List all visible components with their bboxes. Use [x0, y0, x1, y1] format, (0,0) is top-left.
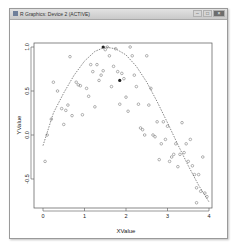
data-point [181, 121, 184, 124]
data-point [164, 138, 167, 141]
data-point [162, 121, 165, 124]
data-point [131, 55, 134, 58]
data-point [89, 63, 92, 66]
data-point [201, 156, 204, 159]
data-point [177, 165, 180, 168]
data-point [145, 55, 148, 58]
data-point [110, 85, 113, 88]
data-point [199, 190, 202, 193]
data-point [125, 96, 128, 99]
data-point [112, 65, 115, 68]
data-point [87, 95, 90, 98]
y-tick-label: -0.5 [24, 174, 30, 183]
data-point [172, 153, 175, 156]
data-point [100, 74, 103, 77]
y-tick-label: 0.5 [24, 87, 30, 95]
highlight-point [118, 79, 121, 82]
data-point [148, 104, 151, 107]
data-point [183, 151, 186, 154]
y-axis: -0.50.00.51.0 [24, 43, 34, 184]
data-point [67, 104, 70, 107]
x-tick-label: 3 [166, 213, 169, 219]
data-point [102, 69, 105, 72]
data-point [166, 125, 169, 128]
data-point [129, 46, 132, 49]
data-point [118, 103, 121, 106]
data-point [133, 74, 136, 77]
data-point [141, 128, 144, 131]
data-point [56, 90, 59, 93]
data-point [104, 48, 107, 51]
data-point [123, 77, 126, 80]
data-point [156, 121, 159, 124]
data-point [158, 158, 161, 161]
data-point [204, 192, 207, 195]
x-tick-label: 4 [207, 213, 210, 219]
data-point [71, 114, 74, 117]
data-point [52, 81, 55, 84]
data-point [195, 201, 198, 204]
highlight-point [102, 45, 105, 48]
data-point [179, 153, 182, 156]
data-point [143, 134, 146, 137]
x-tick-label: 2 [124, 213, 127, 219]
x-axis-label: XValue [117, 228, 137, 234]
data-point [160, 143, 163, 146]
data-point [135, 85, 138, 88]
data-point [116, 70, 119, 73]
data-point [69, 55, 72, 58]
data-point [189, 138, 192, 141]
data-point [108, 55, 111, 58]
data-point [92, 70, 95, 73]
y-axis-label: YValue [16, 115, 22, 135]
data-point [62, 123, 65, 126]
data-point [60, 107, 63, 110]
fit-curve [43, 47, 209, 202]
data-point [154, 135, 157, 138]
data-point [121, 72, 124, 75]
data-point [85, 87, 88, 90]
data-point [193, 173, 196, 176]
data-point [195, 187, 198, 190]
data-point [44, 160, 47, 163]
data-point [191, 165, 194, 168]
data-point [94, 106, 97, 109]
scatter-plot: 01234 -0.50.00.51.0 XValue YValue [0, 0, 231, 247]
data-point [170, 156, 173, 159]
data-point [65, 109, 68, 112]
data-point [75, 81, 78, 84]
data-point [168, 160, 171, 163]
data-point [197, 173, 200, 176]
data-point [185, 143, 188, 146]
data-points [44, 45, 208, 204]
y-tick-label: 1.0 [24, 43, 30, 51]
data-point [96, 63, 99, 66]
data-point [187, 160, 190, 163]
data-point [127, 110, 130, 113]
data-point [98, 79, 101, 82]
y-tick-label: 0.0 [24, 131, 30, 139]
data-point [175, 143, 178, 146]
plot-frame [34, 43, 212, 208]
x-tick-label: 0 [41, 213, 44, 219]
x-tick-label: 1 [83, 213, 86, 219]
x-axis: 01234 [41, 208, 210, 219]
data-point [81, 113, 84, 116]
data-point [137, 103, 140, 106]
